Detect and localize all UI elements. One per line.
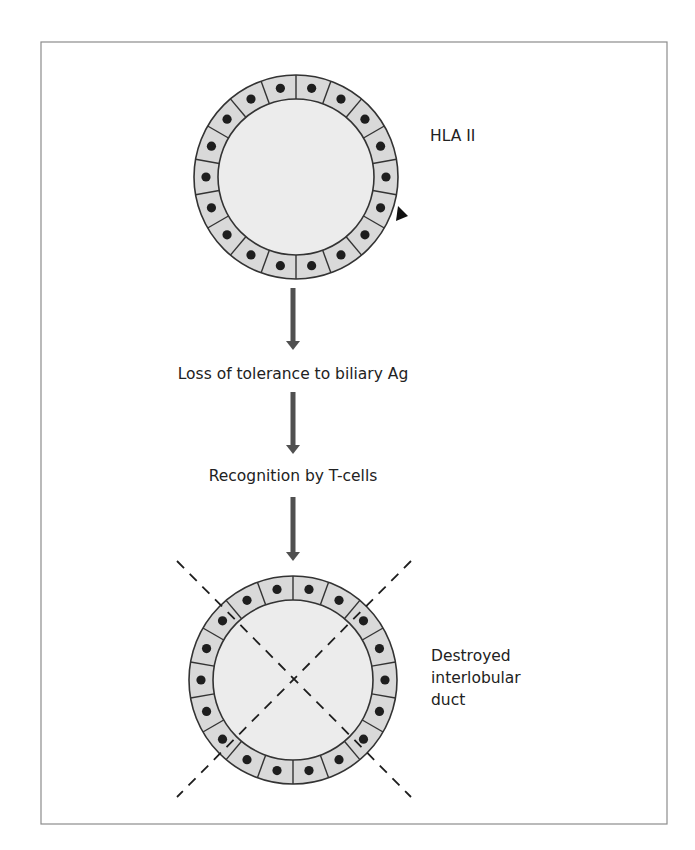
cell-nucleus [218,616,227,625]
cell-nucleus [207,142,216,151]
cell-nucleus [304,585,313,594]
step-recognition-t-cells: Recognition by T-cells [209,467,378,485]
destroyed-duct-label-line-2: interlobular [431,669,521,687]
step-loss-of-tolerance: Loss of tolerance to biliary Ag [178,365,409,383]
duct-lumen [218,99,374,255]
cell-nucleus [376,142,385,151]
cell-nucleus [360,115,369,124]
cell-nucleus [307,84,316,93]
cell-nucleus [201,172,210,181]
cell-nucleus [380,675,389,684]
hla-ii-label: HLA II [430,127,475,145]
cell-nucleus [359,735,368,744]
cell-nucleus [242,596,251,605]
cell-nucleus [276,84,285,93]
cell-nucleus [359,616,368,625]
cell-nucleus [242,755,251,764]
cell-nucleus [375,707,384,716]
top-bile-duct [194,75,398,279]
cell-nucleus [336,250,345,259]
cell-nucleus [360,230,369,239]
arrow-shaft-1 [291,288,296,342]
cell-nucleus [207,203,216,212]
cell-nucleus [276,261,285,270]
arrow-shaft-3 [291,497,296,553]
cell-nucleus [196,675,205,684]
cell-nucleus [218,735,227,744]
cell-nucleus [202,644,211,653]
cell-nucleus [304,766,313,775]
arrow-shaft-2 [291,392,296,446]
cell-nucleus [336,94,345,103]
destroyed-duct-label-line-1: Destroyed [431,647,511,665]
cell-nucleus [307,261,316,270]
cell-nucleus [272,585,281,594]
cell-nucleus [222,115,231,124]
cell-nucleus [334,755,343,764]
cell-nucleus [272,766,281,775]
cell-nucleus [246,250,255,259]
diagram-svg: HLA II Loss of tolerance to biliary Ag R… [0,0,695,850]
cell-nucleus [222,230,231,239]
cell-nucleus [334,596,343,605]
destroyed-duct-label-line-3: duct [431,691,465,709]
cell-nucleus [202,707,211,716]
cell-nucleus [246,94,255,103]
cell-nucleus [375,644,384,653]
cell-nucleus [376,203,385,212]
cell-nucleus [381,172,390,181]
diagram-canvas: HLA II Loss of tolerance to biliary Ag R… [0,0,695,850]
